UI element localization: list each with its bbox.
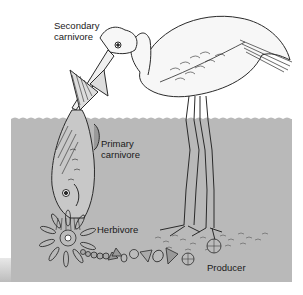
label-herbivore: Herbivore (97, 224, 138, 235)
page-edge-shadow (0, 258, 11, 282)
label-line: carnivore (54, 31, 99, 42)
water-region (11, 118, 292, 283)
label-secondary-carnivore: Secondary carnivore (54, 20, 99, 42)
label-line: Secondary (54, 20, 99, 31)
label-line: Primary (101, 138, 140, 149)
label-producer: Producer (207, 262, 246, 273)
label-line: carnivore (101, 149, 140, 160)
label-primary-carnivore: Primary carnivore (101, 138, 140, 160)
food-chain-diagram: Secondary carnivore Primary carnivore He… (0, 0, 303, 295)
